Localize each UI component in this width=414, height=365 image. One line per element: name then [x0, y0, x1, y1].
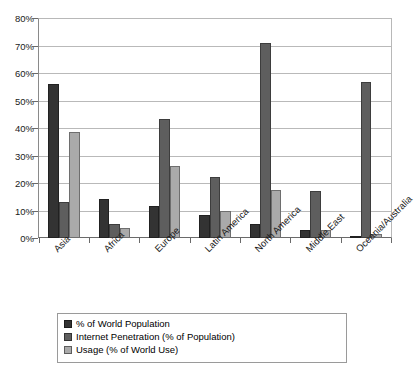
x-tick-mark: [89, 238, 90, 243]
bar-group: [99, 19, 131, 238]
y-tick-label: 0%: [0, 234, 34, 244]
bar[interactable]: [48, 84, 59, 238]
y-tick-label: 40%: [0, 124, 34, 134]
bar[interactable]: [260, 43, 271, 238]
y-tick-label: 20%: [0, 179, 34, 189]
legend-swatch-icon: [64, 333, 72, 341]
y-tick-mark: [32, 238, 38, 239]
legend-entry-penetration: Internet Penetration (% of Population): [64, 331, 235, 342]
legend-swatch-icon: [64, 346, 72, 354]
bar[interactable]: [59, 202, 70, 238]
y-tick-label: 50%: [0, 97, 34, 107]
legend-row-1: % of World Population Internet Penetrati…: [64, 318, 340, 344]
x-tick-mark: [391, 238, 392, 243]
legend-label: Internet Penetration (% of Population): [76, 331, 235, 342]
y-tick-label: 80%: [0, 14, 34, 24]
bar-group: [300, 19, 332, 238]
y-tick-label: 60%: [0, 69, 34, 79]
bar[interactable]: [199, 215, 210, 238]
legend-label: Usage (% of World Use): [76, 344, 178, 355]
bar-group: [199, 19, 231, 238]
x-tick-mark: [39, 238, 40, 243]
y-tick-label: 30%: [0, 152, 34, 162]
x-tick-mark: [240, 238, 241, 243]
bar[interactable]: [250, 224, 261, 238]
legend-entry-usage: Usage (% of World Use): [64, 344, 178, 355]
bar-group: [48, 19, 80, 238]
legend-label: % of World Population: [76, 318, 170, 329]
bar[interactable]: [159, 119, 170, 238]
chart-legend: % of World Population Internet Penetrati…: [57, 313, 347, 363]
bar[interactable]: [69, 132, 80, 238]
bar-group: [250, 19, 282, 238]
bar[interactable]: [361, 82, 372, 238]
bar[interactable]: [99, 199, 110, 238]
legend-swatch-icon: [64, 320, 72, 328]
bar[interactable]: [350, 236, 361, 238]
bar[interactable]: [300, 230, 311, 238]
bar-group: [350, 19, 382, 238]
bars-layer: [39, 19, 391, 238]
bar[interactable]: [149, 206, 160, 238]
x-tick-mark: [190, 238, 191, 243]
y-tick-label: 10%: [0, 207, 34, 217]
legend-row-2: Usage (% of World Use): [64, 344, 340, 357]
x-tick-mark: [341, 238, 342, 243]
x-tick-mark: [290, 238, 291, 243]
y-tick-label: 70%: [0, 42, 34, 52]
bar-group: [149, 19, 181, 238]
x-tick-mark: [139, 238, 140, 243]
legend-entry-population: % of World Population: [64, 318, 170, 329]
